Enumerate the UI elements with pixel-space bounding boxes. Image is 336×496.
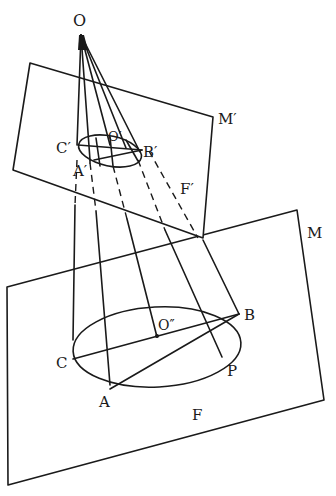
diagram-canvas: O M′ F′ O′ C′ B′ A′ M F O″ C B A P — [0, 0, 336, 496]
label-m: M — [307, 224, 322, 242]
label-f-prime: F′ — [180, 180, 194, 198]
upper-plane-m-prime — [13, 63, 213, 238]
label-a: A — [98, 393, 110, 411]
label-b: B — [244, 306, 255, 324]
label-c-prime: C′ — [56, 139, 71, 157]
label-o-double-prime: O″ — [158, 317, 175, 333]
lower-plane-m — [7, 210, 324, 485]
label-p: P — [227, 362, 237, 380]
label-b-prime: B′ — [143, 143, 158, 161]
projection-diagram: O M′ F′ O′ C′ B′ A′ M F O″ C B A P — [0, 0, 336, 496]
lower-center-point — [155, 334, 159, 338]
label-m-prime: M′ — [218, 110, 237, 128]
label-o: O — [73, 11, 86, 30]
label-c: C — [56, 354, 67, 372]
label-f: F — [192, 406, 202, 424]
label-a-prime: A′ — [72, 162, 88, 180]
label-o-prime: O′ — [108, 129, 122, 144]
